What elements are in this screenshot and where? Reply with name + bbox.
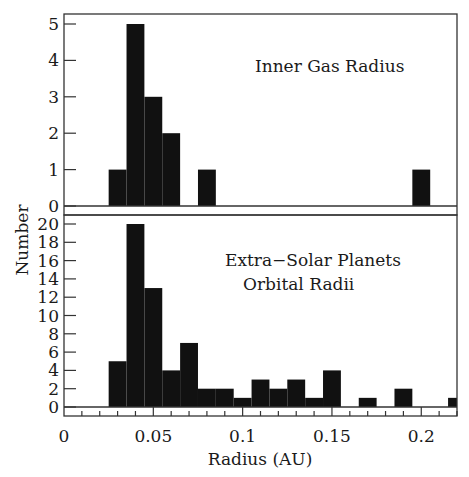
histogram-bar xyxy=(412,170,430,206)
y-tick-label: 4 xyxy=(48,50,59,70)
bottom-panel-exoplanet-radii: 02468101214161820Extra−Solar PlanetsOrbi… xyxy=(37,214,457,446)
histogram-bar xyxy=(252,380,270,407)
y-tick-label: 3 xyxy=(48,87,59,107)
y-tick-label: 20 xyxy=(37,214,59,234)
y-tick-label: 5 xyxy=(48,14,59,34)
panel-annotation: Orbital Radii xyxy=(243,274,355,294)
y-tick-label: 1 xyxy=(48,160,59,180)
x-tick-label: 0.05 xyxy=(134,426,172,446)
histogram-figure: 012345Inner Gas Radius 02468101214161820… xyxy=(0,0,469,477)
histogram-bar xyxy=(305,398,323,407)
histogram-bar xyxy=(359,398,377,407)
histogram-bar xyxy=(144,288,162,407)
histogram-bar xyxy=(448,398,457,407)
y-tick-label: 10 xyxy=(37,306,59,326)
y-tick-label: 16 xyxy=(37,251,59,271)
histogram-bar xyxy=(269,389,287,407)
histogram-bar xyxy=(109,361,127,407)
y-tick-label: 14 xyxy=(37,269,59,289)
histogram-bar xyxy=(323,370,341,407)
y-tick-label: 0 xyxy=(48,196,59,216)
histogram-bar xyxy=(127,24,145,206)
panel-annotation: Inner Gas Radius xyxy=(255,56,404,76)
histogram-bar xyxy=(144,97,162,206)
histogram-bar xyxy=(162,370,180,407)
x-tick-label: 0.2 xyxy=(408,426,435,446)
histogram-bar xyxy=(198,389,216,407)
y-tick-label: 18 xyxy=(37,232,59,252)
x-tick-label: 0 xyxy=(59,426,70,446)
y-tick-label: 4 xyxy=(48,360,59,380)
y-tick-label: 12 xyxy=(37,287,59,307)
y-tick-label: 0 xyxy=(48,397,59,417)
top-panel-inner-gas-radius: 012345Inner Gas Radius xyxy=(48,14,457,216)
histogram-bar xyxy=(180,343,198,407)
y-tick-label: 8 xyxy=(48,324,59,344)
panel-annotation: Extra−Solar Planets xyxy=(225,250,401,270)
histogram-bar xyxy=(216,389,234,407)
y-tick-label: 6 xyxy=(48,342,59,362)
histogram-bar xyxy=(198,170,216,206)
histogram-bar xyxy=(127,224,145,407)
y-axis-title: Number xyxy=(12,204,32,276)
x-axis-title: Radius (AU) xyxy=(208,449,313,469)
x-tick-label: 0.1 xyxy=(229,426,256,446)
histogram-bar xyxy=(162,133,180,206)
histogram-bar xyxy=(287,380,305,407)
histogram-bar xyxy=(394,389,412,407)
histogram-bar xyxy=(234,398,252,407)
y-tick-label: 2 xyxy=(48,379,59,399)
x-tick-label: 0.15 xyxy=(313,426,351,446)
histogram-bar xyxy=(109,170,127,206)
y-tick-label: 2 xyxy=(48,123,59,143)
